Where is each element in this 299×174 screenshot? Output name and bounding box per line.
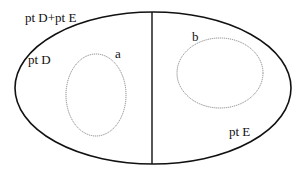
- inner-right-label: b: [192, 29, 199, 44]
- outer-label: pt D+pt E: [25, 10, 76, 25]
- inner-left-label: a: [115, 46, 121, 61]
- inner-ellipse-a: [66, 54, 126, 136]
- right-region-label: pt E: [229, 124, 250, 139]
- left-region-label: pt D: [28, 52, 51, 67]
- venn-diagram: pt D+pt E pt D pt E a b: [0, 0, 299, 174]
- inner-ellipse-b: [177, 38, 263, 108]
- outer-ellipse: [15, 12, 291, 164]
